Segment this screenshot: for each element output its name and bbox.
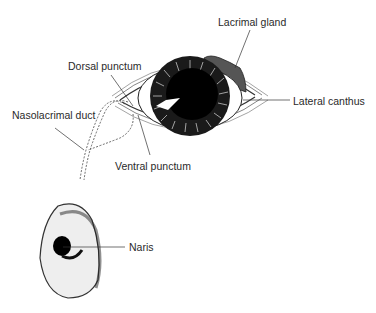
label-lacrimal-gland: Lacrimal gland: [218, 16, 286, 28]
label-naris: Naris: [129, 241, 154, 253]
label-dorsal-punctum: Dorsal punctum: [68, 60, 142, 72]
pupil: [166, 68, 218, 120]
naris-shape: [40, 204, 100, 298]
label-ventral-punctum: Ventral punctum: [115, 160, 191, 172]
label-lateral-canthus: Lateral canthus: [293, 95, 365, 107]
diagram-canvas: [0, 0, 376, 313]
label-nasolacrimal-duct: Nasolacrimal duct: [12, 109, 95, 121]
